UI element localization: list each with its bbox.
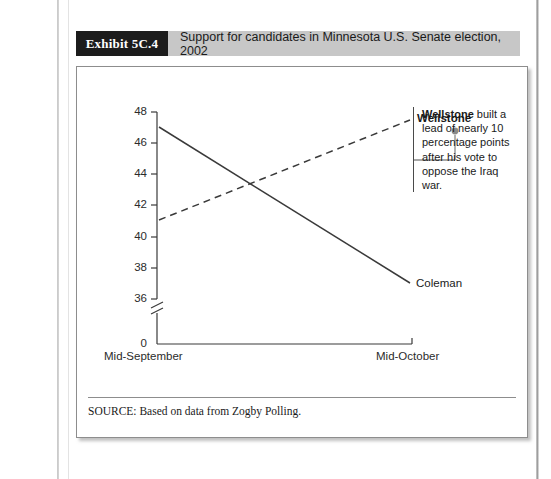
page-edge-rule [536,0,539,479]
chart-plot-area: 48 46 44 42 40 38 36 0 Mid-September Mid… [77,67,529,385]
page-gutter-rule [57,0,59,479]
y-tick-label: 40 [121,230,147,242]
y-tick-label: 48 [121,105,147,117]
x-tick-label-mid-october: Mid-October [376,350,439,362]
y-tick-label: 42 [121,198,147,210]
y-tick-label-zero: 0 [121,337,147,349]
x-tick-label-mid-september: Mid-September [104,350,183,362]
y-tick-label: 44 [121,167,147,179]
callout-body-text: built a lead of nearly 10 percentage poi… [422,108,509,191]
exhibit-header-band: Exhibit 5C.4 Support for candidates in M… [76,31,520,56]
figure-frame: 48 46 44 42 40 38 36 0 Mid-September Mid… [76,66,528,438]
exhibit-number-label: Exhibit 5C.4 [86,36,158,52]
source-note: SOURCE: Based on data from Zogby Polling… [88,405,301,417]
y-tick-label: 38 [121,261,147,273]
callout-lead-word: Wellstone [422,108,474,120]
exhibit-title: Support for candidates in Minnesota U.S.… [180,31,520,56]
callout-annotation: Wellstone built a lead of nearly 10 perc… [413,107,512,192]
source-divider [88,397,516,398]
exhibit-number-tag: Exhibit 5C.4 [76,31,168,56]
y-tick-label: 46 [121,136,147,148]
series-label-coleman: Coleman [416,277,462,289]
y-tick-label: 36 [121,292,147,304]
page-gutter-rule-secondary [68,0,69,479]
